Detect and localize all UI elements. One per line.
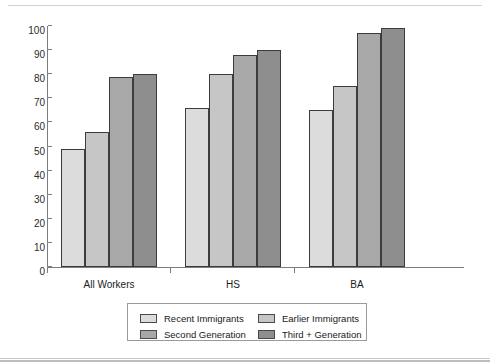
plot-area: 0102030405060708090100 All WorkersHSBA [47, 26, 464, 268]
top-divider-rule [8, 5, 482, 6]
y-axis-tick: 40 [2, 165, 52, 177]
y-axis-tick-mark [48, 242, 52, 243]
x-axis-line [47, 267, 464, 268]
y-axis-tick-label: 50 [34, 146, 52, 158]
y-axis-tick: 10 [2, 237, 52, 249]
legend-label: Second Generation [164, 329, 246, 340]
y-axis-tick-mark [48, 121, 52, 122]
bar-chart-figure: 0102030405060708090100 All WorkersHSBA R… [0, 0, 490, 363]
legend-label: Earlier Immigrants [282, 313, 359, 324]
y-axis-tick-mark [48, 49, 52, 50]
y-axis-tick: 100 [2, 20, 52, 32]
y-axis-tick-label: 60 [34, 121, 52, 133]
x-axis-tick-mark [170, 268, 171, 273]
legend-item[interactable]: Recent Immigrants [140, 311, 244, 325]
legend-label: Third + Generation [282, 329, 361, 340]
y-axis-tick: 0 [2, 261, 52, 273]
bar [257, 50, 281, 267]
y-axis-tick-label: 90 [34, 49, 52, 61]
y-axis-tick-mark [48, 97, 52, 98]
y-axis-tick: 70 [2, 92, 52, 104]
legend-item[interactable]: Second Generation [140, 327, 246, 341]
bottom-divider-rule-2 [0, 360, 490, 362]
y-axis-tick-mark [48, 170, 52, 171]
y-axis-tick: 60 [2, 116, 52, 128]
y-axis-tick: 90 [2, 44, 52, 56]
y-axis-tick-label: 0 [39, 266, 52, 278]
y-axis-tick-label: 70 [34, 97, 52, 109]
legend-label: Recent Immigrants [164, 313, 244, 324]
legend-swatch-icon [140, 314, 157, 323]
y-axis-tick-label: 20 [34, 218, 52, 230]
y-axis-tick-label: 10 [34, 242, 52, 254]
y-axis-tick-mark [48, 25, 52, 26]
bar [333, 86, 357, 267]
y-axis-tick-label: 30 [34, 194, 52, 206]
legend-item[interactable]: Third + Generation [258, 327, 361, 341]
x-axis-tick-mark [47, 268, 48, 273]
y-axis-tick-mark [48, 194, 52, 195]
y-axis-tick-mark [48, 266, 52, 267]
bar [185, 108, 209, 267]
y-axis-tick-mark [48, 73, 52, 74]
x-axis-group-label: HS [165, 279, 301, 290]
y-axis-tick-label: 40 [34, 170, 52, 182]
y-axis-tick-mark [48, 218, 52, 219]
y-axis-tick: 50 [2, 141, 52, 153]
bar [233, 55, 257, 267]
bar [109, 77, 133, 267]
y-axis-tick-label: 100 [28, 25, 52, 37]
x-axis-tick-mark [294, 268, 295, 273]
x-axis-group-label: All Workers [41, 279, 177, 290]
x-axis-group-label: BA [289, 279, 425, 290]
bar [209, 74, 233, 267]
bar [133, 74, 157, 267]
chart-legend: Recent ImmigrantsEarlier ImmigrantsSecon… [127, 303, 367, 341]
y-axis-tick-label: 80 [34, 73, 52, 85]
bar [381, 28, 405, 267]
bar [61, 149, 85, 267]
y-axis-tick: 30 [2, 189, 52, 201]
bottom-divider-rule [0, 358, 490, 359]
bar [309, 110, 333, 267]
y-axis-tick: 20 [2, 213, 52, 225]
bar [357, 33, 381, 267]
y-axis-tick: 80 [2, 68, 52, 80]
y-axis-tick-mark [48, 146, 52, 147]
legend-swatch-icon [140, 330, 157, 339]
legend-swatch-icon [258, 314, 275, 323]
bar [85, 132, 109, 267]
legend-swatch-icon [258, 330, 275, 339]
legend-item[interactable]: Earlier Immigrants [258, 311, 359, 325]
